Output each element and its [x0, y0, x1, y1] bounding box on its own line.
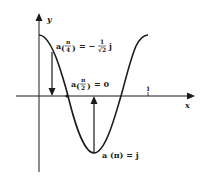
- y-axis-arrow-icon: [36, 13, 43, 21]
- svg-text:): ): [87, 81, 91, 91]
- vector-arrow-pi: [91, 96, 98, 153]
- diagram-canvas: y x 1 a ( π 4 ) = −: [0, 0, 200, 178]
- x-axis-label: x: [184, 100, 190, 110]
- svg-text:π: π: [81, 76, 86, 83]
- svg-text:= 0: = 0: [94, 79, 109, 89]
- svg-text:= −: = −: [79, 41, 95, 51]
- annotation-pi: a (π) = j: [102, 150, 139, 160]
- arrow-down-icon: [49, 88, 56, 96]
- x-axis-arrow-icon: [187, 93, 195, 100]
- svg-text:1: 1: [100, 38, 104, 45]
- svg-text:j: j: [108, 41, 112, 51]
- zero-crossing-point: [65, 94, 68, 97]
- svg-text:(: (: [76, 81, 80, 91]
- x-axis: [16, 92, 195, 100]
- y-axis-label: y: [46, 14, 53, 24]
- acceleration-cosine-diagram: y x 1 a ( π 4 ) = −: [0, 0, 200, 178]
- svg-text:4: 4: [66, 46, 70, 53]
- annotation-pi-over-4: a ( π 4 ) = − 1 √2 j: [56, 38, 112, 53]
- arrow-up-icon: [91, 96, 98, 104]
- svg-text:2: 2: [81, 84, 85, 91]
- svg-text:): ): [72, 43, 76, 53]
- annotation-pi-over-2: a ( π 2 ) = 0: [71, 76, 109, 91]
- vector-arrow-pi-over-4: [49, 52, 56, 96]
- svg-text:π: π: [66, 38, 71, 45]
- x-tick-label: 1: [146, 85, 150, 92]
- svg-text:(: (: [61, 43, 65, 53]
- svg-text:√2: √2: [98, 46, 106, 53]
- y-axis: [36, 13, 43, 172]
